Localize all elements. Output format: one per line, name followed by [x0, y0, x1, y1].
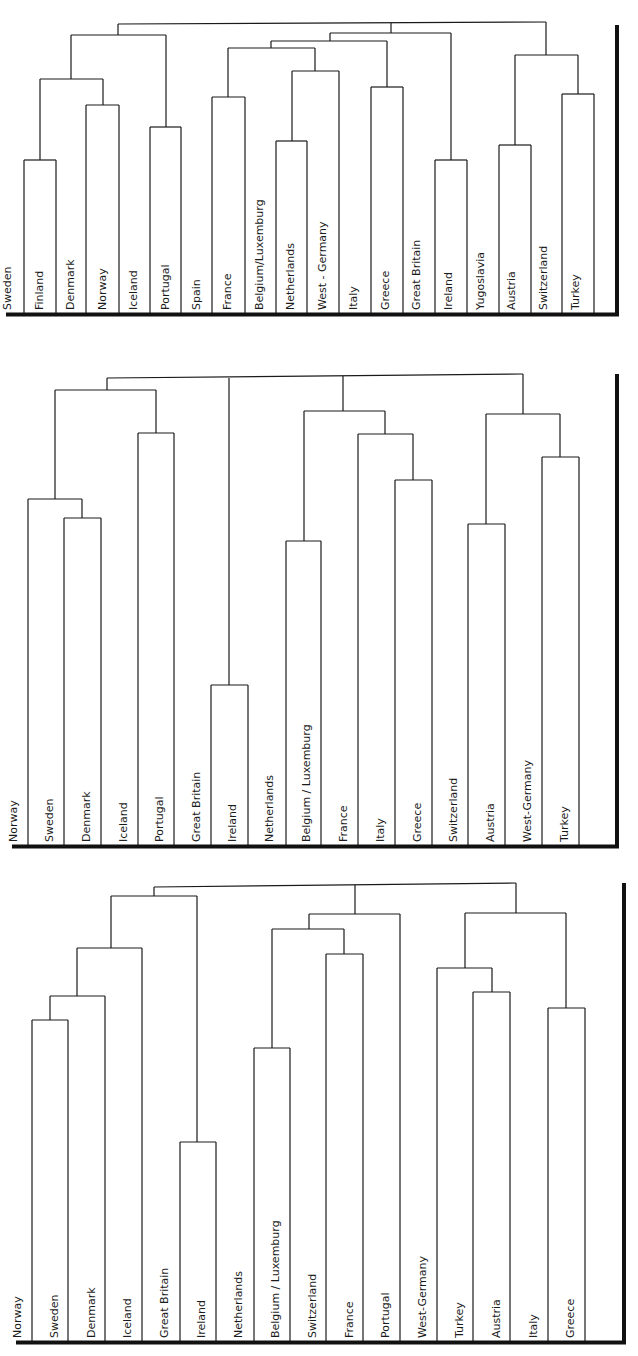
- leaf-label: Netherlands: [285, 243, 296, 310]
- leaf-label: Switzerland: [538, 246, 549, 310]
- leaf-label: Norway: [97, 268, 108, 310]
- leaf-label: Finland: [34, 271, 45, 310]
- leaf-label: Greece: [380, 271, 391, 310]
- leaf-label: Great Britain: [191, 772, 202, 842]
- leaf-label: West-Germany: [417, 1256, 428, 1338]
- leaf-label: West-Germany: [522, 760, 533, 842]
- leaf-label: Austria: [485, 803, 496, 842]
- leaf-label: Great Britain: [411, 240, 422, 310]
- leaf-label: Iceland: [118, 802, 129, 842]
- leaf-label: Switzerland: [448, 778, 459, 842]
- leaf-label: Portugal: [380, 1292, 391, 1338]
- leaf-label: Ireland: [196, 1300, 207, 1338]
- dendrogram-link: [154, 883, 516, 887]
- leaf-label: Sweden: [2, 267, 13, 310]
- dendrogram-link: [107, 374, 523, 378]
- leaf-label: Norway: [8, 800, 19, 842]
- leaf-label: France: [338, 805, 349, 842]
- dendrogram-canvas: [0, 0, 638, 1356]
- leaf-label: Ireland: [443, 272, 454, 310]
- leaf-label: Greece: [565, 1299, 576, 1338]
- leaf-label: Portugal: [160, 264, 171, 310]
- leaf-label: Italy: [348, 286, 359, 310]
- dendrogram-link: [118, 22, 546, 24]
- leaf-label: Portugal: [154, 796, 165, 842]
- leaf-label: Italy: [528, 1314, 539, 1338]
- leaf-label: Denmark: [81, 791, 92, 842]
- leaf-label: Ireland: [227, 804, 238, 842]
- leaf-label: Austria: [491, 1299, 502, 1338]
- leaf-label: France: [344, 1301, 355, 1338]
- leaf-label: France: [222, 273, 233, 310]
- leaf-label: Spain: [191, 279, 202, 310]
- leaf-label: Greece: [412, 803, 423, 842]
- leaf-label: Belgium/Luxemburg: [254, 199, 265, 310]
- leaf-label: Switzerland: [307, 1274, 318, 1338]
- leaf-label: Great Britain: [159, 1268, 170, 1338]
- leaf-label: Turkey: [454, 1302, 465, 1338]
- leaf-label: Netherlands: [264, 775, 275, 842]
- leaf-label: Italy: [375, 818, 386, 842]
- leaf-label: Denmark: [86, 1287, 97, 1338]
- leaf-label: Yugoslavia: [475, 252, 486, 310]
- leaf-label: West - Germany: [317, 221, 328, 310]
- leaf-label: Austria: [506, 271, 517, 310]
- dendrogram-bottom: [16, 883, 626, 1343]
- leaf-label: Turkey: [559, 806, 570, 842]
- leaf-label: Sweden: [49, 1295, 60, 1338]
- leaf-label: Iceland: [122, 1298, 133, 1338]
- leaf-label: Iceland: [128, 270, 139, 310]
- leaf-label: Norway: [12, 1296, 23, 1338]
- leaf-label: Belgium / Luxemburg: [270, 1220, 281, 1338]
- leaf-label: Turkey: [570, 274, 581, 310]
- leaf-label: Netherlands: [233, 1271, 244, 1338]
- leaf-label: Sweden: [44, 799, 55, 842]
- leaf-label: Belgium / Luxemburg: [301, 724, 312, 842]
- leaf-label: Denmark: [65, 259, 76, 310]
